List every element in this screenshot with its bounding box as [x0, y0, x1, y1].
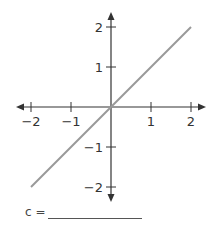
x-tick-label: −2: [21, 114, 40, 129]
x-tick-label: 1: [147, 114, 155, 129]
x-axis-right-arrow: [198, 104, 206, 111]
y-axis-bottom-arrow: [108, 194, 115, 202]
y-tick-label: −2: [84, 180, 103, 195]
y-axis-top-arrow: [108, 12, 115, 20]
y-tick-label: 2: [95, 20, 103, 35]
x-axis-left-arrow: [16, 104, 24, 111]
x-tick-label: 2: [187, 114, 195, 129]
answer-blank[interactable]: [48, 218, 142, 219]
answer-label: c =: [25, 205, 45, 219]
y-tick-label: −1: [84, 140, 103, 155]
x-tick-label: −1: [61, 114, 80, 129]
coordinate-plane: −2−11221−1−2: [0, 0, 219, 226]
y-tick-label: 1: [95, 60, 103, 75]
